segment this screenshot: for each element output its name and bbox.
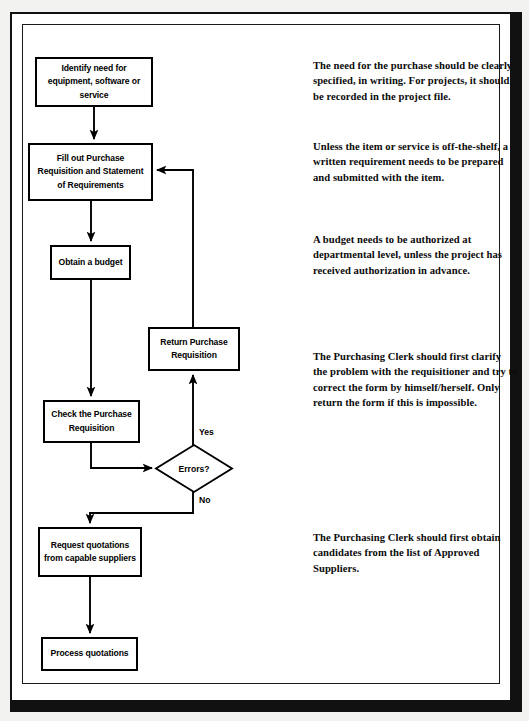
note-clerk-clarify: The Purchasing Clerk should first clarif… [313,349,518,411]
connector-check-to-errors [91,443,152,468]
node-check-requisition-label: Check the Purchase Requisition [49,408,134,435]
note-budget: A budget needs to be authorized at depar… [313,232,518,278]
note-need: The need for the purchase should be clea… [313,58,518,104]
node-fill-out-requisition-label: Fill out Purchase Requisition and Statem… [34,152,147,193]
node-check-requisition[interactable]: Check the Purchase Requisition [43,400,140,443]
flowchart-canvas: Identify need for equipment, software or… [0,0,529,721]
node-obtain-budget[interactable]: Obtain a budget [50,245,131,280]
node-identify-need-label: Identify need for equipment, software or… [41,62,147,103]
node-return-requisition-label: Return Purchase Requisition [154,336,234,363]
connector-errors-no-to-quotations [90,492,193,523]
connector-return-to-fill [157,170,193,327]
note-requirement: Unless the item or service is off-the-sh… [313,139,518,185]
flowchart-page: Identify need for equipment, software or… [0,0,529,721]
note-clerk-suppliers: The Purchasing Clerk should first obtain… [313,530,518,576]
node-request-quotations[interactable]: Request quotations from capable supplier… [38,527,142,577]
node-obtain-budget-label: Obtain a budget [59,256,123,270]
node-errors-decision[interactable]: Errors? [156,445,232,492]
node-fill-out-requisition[interactable]: Fill out Purchase Requisition and Statem… [28,143,153,201]
node-errors-decision-label: Errors? [156,445,232,492]
node-process-quotations[interactable]: Process quotations [41,637,138,671]
node-identify-need[interactable]: Identify need for equipment, software or… [35,57,153,107]
branch-label-yes: Yes [199,427,214,437]
node-return-requisition[interactable]: Return Purchase Requisition [148,327,240,371]
node-process-quotations-label: Process quotations [51,647,129,661]
node-request-quotations-label: Request quotations from capable supplier… [44,539,136,566]
branch-label-no: No [199,495,210,505]
